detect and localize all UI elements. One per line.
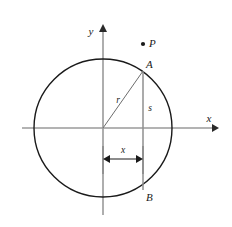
geometry-diagram: y x P A B r s x bbox=[0, 0, 232, 227]
dimension-x-arrowhead-left bbox=[103, 155, 110, 163]
dimension-x-label: x bbox=[120, 145, 126, 155]
y-axis-label: y bbox=[88, 25, 94, 37]
dimension-x-arrowhead-right bbox=[136, 155, 143, 163]
axes-group bbox=[22, 24, 219, 215]
radius-label: r bbox=[116, 95, 120, 105]
diagram-canvas: y x P A B r s x bbox=[0, 0, 232, 227]
y-axis-arrowhead bbox=[99, 24, 107, 32]
point-a-label: A bbox=[145, 58, 153, 70]
radius-segment-r bbox=[103, 71, 143, 128]
point-b-label: B bbox=[146, 191, 153, 203]
chord-label: s bbox=[148, 103, 152, 113]
x-axis-label: x bbox=[206, 112, 212, 124]
point-p-label: P bbox=[148, 37, 156, 49]
x-axis-arrowhead bbox=[212, 124, 219, 132]
point-p-dot bbox=[141, 42, 145, 46]
